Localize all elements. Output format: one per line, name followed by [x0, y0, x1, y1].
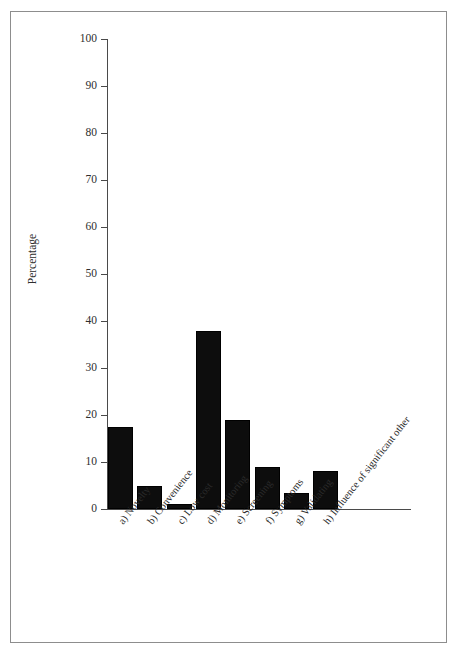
y-axis-tick-label: 40 — [57, 315, 97, 327]
y-axis-tick-label: 60 — [57, 221, 97, 233]
y-axis-tick-label: 80 — [57, 127, 97, 139]
y-axis-tick-label: 50 — [57, 268, 97, 280]
y-axis-tick-label-wrap: 70 — [55, 180, 107, 181]
y-axis-tick-label-wrap: 0 — [55, 509, 107, 510]
bar-chart: Percentage 0102030405060708090100 a) Nov… — [0, 0, 459, 654]
y-axis-tick-label: 10 — [57, 456, 97, 468]
y-axis-tick-label-wrap: 10 — [55, 462, 107, 463]
y-axis-tick-label: 100 — [57, 33, 97, 45]
y-axis-tick-label-wrap: 80 — [55, 133, 107, 134]
y-axis-tick-label: 70 — [57, 174, 97, 186]
y-axis-tick-label-wrap: 90 — [55, 86, 107, 87]
bar — [108, 427, 133, 509]
y-axis-tick-label: 0 — [57, 503, 97, 515]
y-axis-tick-label-wrap: 30 — [55, 368, 107, 369]
y-axis-tick-label: 30 — [57, 362, 97, 374]
y-axis-tick-label-wrap: 60 — [55, 227, 107, 228]
y-axis-tick-label-wrap: 100 — [55, 39, 107, 40]
y-axis-tick-label-wrap: 40 — [55, 321, 107, 322]
y-axis-tick-label-wrap: 20 — [55, 415, 107, 416]
y-axis-tick-label-wrap: 50 — [55, 274, 107, 275]
y-axis-title: Percentage — [26, 199, 38, 319]
y-axis-tick-label: 20 — [57, 409, 97, 421]
y-axis-tick-label: 90 — [57, 80, 97, 92]
